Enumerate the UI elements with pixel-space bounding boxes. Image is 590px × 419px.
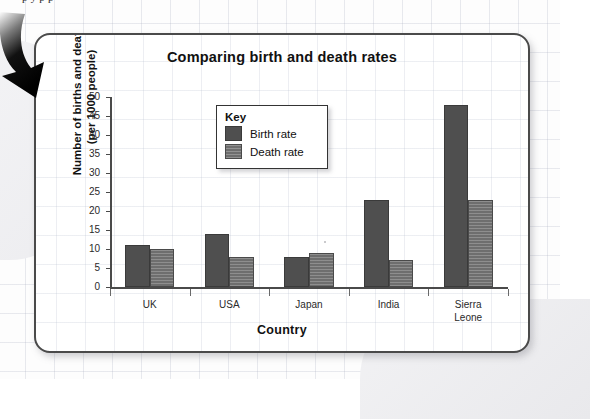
- x-category-label-line: Japan: [269, 299, 349, 312]
- y-tick-mark: [106, 287, 111, 288]
- x-category-label-line: USA: [190, 299, 270, 312]
- y-tick-label: 35: [78, 148, 100, 159]
- cut-off-text-line: p y p p: [22, 0, 542, 3]
- x-category-label: India: [349, 299, 429, 312]
- y-tick-label: 0: [78, 281, 100, 292]
- y-tick-mark: [106, 230, 111, 231]
- bar-death-rate: [229, 257, 254, 287]
- x-category-label-line: Sierra: [428, 299, 508, 312]
- y-tick-mark: [106, 211, 111, 212]
- y-tick-mark: [106, 116, 111, 117]
- y-tick-mark: [106, 192, 111, 193]
- bar-death-rate: [389, 260, 414, 287]
- x-axis-line: [110, 287, 508, 289]
- y-tick-mark: [106, 154, 111, 155]
- y-tick-mark: [106, 268, 111, 269]
- x-axis-divider: [190, 289, 191, 296]
- y-tick-label: 5: [78, 262, 100, 273]
- curved-down-arrow-icon: [0, 6, 74, 102]
- y-tick-label: 10: [78, 243, 100, 254]
- chart-legend: Key Birth rate Death rate: [216, 105, 328, 169]
- bar-death-rate: [150, 249, 175, 287]
- x-category-label: Japan: [269, 299, 349, 312]
- legend-item-death-rate: Death rate: [225, 144, 320, 159]
- y-tick-label: 25: [78, 186, 100, 197]
- x-category-label: SierraLeone: [428, 299, 508, 324]
- x-category-label-line: UK: [110, 299, 190, 312]
- x-category-label-line: India: [349, 299, 429, 312]
- y-tick-mark: [106, 97, 111, 98]
- y-tick-label: 50: [78, 91, 100, 102]
- legend-swatch-birth-rate-icon: [225, 126, 242, 141]
- bar-death-rate: [468, 200, 493, 287]
- legend-label-birth-rate: Birth rate: [250, 128, 297, 140]
- chart-card: Comparing birth and death rates Number o…: [34, 33, 530, 353]
- legend-label-death-rate: Death rate: [250, 146, 304, 158]
- page-speck: [324, 241, 326, 243]
- x-axis-title: Country: [36, 323, 528, 337]
- bar-birth-rate: [284, 257, 309, 287]
- x-axis-end-tick: [508, 289, 509, 296]
- y-tick-label: 45: [78, 110, 100, 121]
- plot-area: Number of births and deaths (per 1000 pe…: [36, 35, 528, 351]
- x-axis-divider: [428, 289, 429, 296]
- bar-birth-rate: [205, 234, 230, 287]
- y-tick-mark: [106, 135, 111, 136]
- legend-item-birth-rate: Birth rate: [225, 126, 320, 141]
- x-axis-divider: [349, 289, 350, 296]
- y-tick-label: 40: [78, 129, 100, 140]
- x-category-label: USA: [190, 299, 270, 312]
- y-tick-mark: [106, 173, 111, 174]
- bar-birth-rate: [444, 105, 469, 287]
- y-tick-label: 15: [78, 224, 100, 235]
- x-category-label: UK: [110, 299, 190, 312]
- bar-birth-rate: [125, 245, 150, 287]
- legend-title: Key: [225, 111, 320, 123]
- x-axis-divider: [269, 289, 270, 296]
- x-axis-end-tick: [110, 289, 111, 296]
- bar-death-rate: [309, 253, 334, 287]
- y-tick-label: 20: [78, 205, 100, 216]
- legend-swatch-death-rate-icon: [225, 144, 242, 159]
- y-tick-label: 30: [78, 167, 100, 178]
- bar-birth-rate: [364, 200, 389, 287]
- y-tick-mark: [106, 249, 111, 250]
